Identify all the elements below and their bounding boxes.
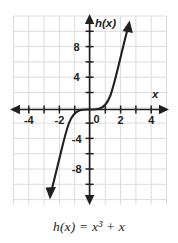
x-tick-label-2: 2 [118, 114, 124, 126]
y-tick-label-neg8: -8 [72, 163, 82, 175]
x-tick-label-neg2: -2 [55, 114, 65, 126]
origin-label: 0 [93, 113, 99, 125]
coordinate-grid-svg: h(x) x -4 -2 2 4 0 8 4 -4 -8 [0, 0, 178, 210]
y-tick-label-neg4: -4 [72, 133, 83, 145]
y-tick-label-4: 4 [73, 71, 80, 83]
y-axis-title: h(x) [95, 17, 116, 29]
x-axis-title: x [151, 88, 159, 100]
y-tick-label-8: 8 [73, 41, 79, 53]
x-tick-label-neg4: -4 [24, 114, 35, 126]
figure-caption: h(x) = x³ + x [0, 210, 178, 243]
coordinate-plane: h(x) x -4 -2 2 4 0 8 4 -4 -8 [0, 0, 178, 210]
x-tick-label-4: 4 [148, 114, 155, 126]
graph-figure: h(x) x -4 -2 2 4 0 8 4 -4 -8 h(x) = x³ +… [0, 0, 178, 243]
